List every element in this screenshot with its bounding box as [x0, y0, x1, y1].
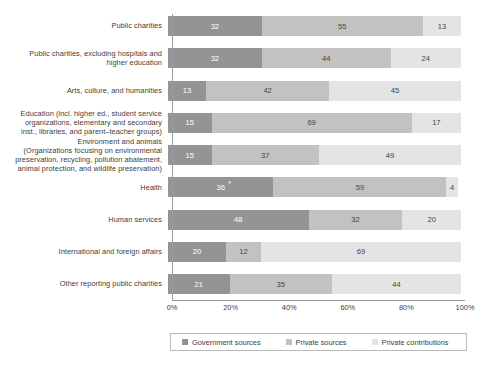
legend-swatch-icon [286, 339, 292, 345]
bar-segment: 69 [212, 113, 412, 133]
chart-row: Arts, culture, and humanities134245 [0, 81, 487, 101]
category-label: Education (incl. higher ed., student ser… [0, 109, 168, 137]
bar-segment: 45 [329, 81, 461, 101]
x-axis-tick-label: 20% [223, 303, 238, 312]
chart-row: Human services483220 [0, 210, 487, 230]
legend-label: Private contributions [382, 338, 449, 347]
bar-segment: 15 [168, 145, 212, 165]
category-label-line: higher education [0, 58, 162, 67]
bar-segment: 4 [446, 177, 458, 197]
bar-segment-value: 15 [186, 118, 194, 127]
bar-segment: 13 [168, 81, 206, 101]
chart-row: Education (incl. higher ed., student ser… [0, 113, 487, 133]
x-axis-tick-label: 80% [399, 303, 414, 312]
chart-row: Environment and animals(Organizations fo… [0, 145, 487, 165]
category-label: Public charities, excluding hospitals an… [0, 49, 168, 67]
bar-segment: 55 [262, 16, 423, 36]
stacked-bar: 325513 [168, 16, 461, 36]
category-label: International and foreign affairs [0, 247, 168, 256]
bar-segment-value: 12 [239, 247, 247, 256]
bar-segment-value: 20 [193, 247, 201, 256]
bar-segment: 13 [423, 16, 461, 36]
legend-swatch-icon [182, 339, 188, 345]
bar-segment: 44 [332, 274, 461, 294]
bar-segment: 42 [206, 81, 329, 101]
plot-area: Public charities325513Public charities, … [0, 0, 487, 300]
bar-segment: 32 [168, 48, 262, 68]
bar-segment-value: 42 [263, 86, 271, 95]
stacked-bar: 483220 [168, 210, 461, 230]
bar-segment-value: 21 [195, 280, 203, 289]
x-axis-tick-label: 0% [167, 303, 178, 312]
stacked-bar: 324424 [168, 48, 461, 68]
bar-segment-value: 44 [322, 54, 330, 63]
bar-segment-value: 13 [183, 86, 191, 95]
legend-item[interactable]: Private contributions [372, 338, 449, 347]
bar-segment: 59 [273, 177, 446, 197]
category-label: Other reporting public charities [0, 279, 168, 288]
bar-segment: 35 [230, 274, 333, 294]
bar-segment: 32 [309, 210, 403, 230]
category-label: Environment and animals(Organizations fo… [0, 137, 168, 174]
category-label-line: (Organizations focusing on environmental [0, 146, 162, 155]
legend-item[interactable]: Private sources [286, 338, 347, 347]
category-label-line: Public charities, excluding hospitals an… [0, 49, 162, 58]
stacked-bar: 36*594 [168, 177, 461, 197]
chart-row: Other reporting public charities213544 [0, 274, 487, 294]
bar-segment-value: 48 [234, 215, 242, 224]
legend-swatch-icon [372, 339, 378, 345]
bar-segment: 49 [319, 145, 461, 165]
stacked-bar: 213544 [168, 274, 461, 294]
category-label-line: organizations, elementary and secondary [0, 118, 162, 127]
x-axis-tick-labels: 0%20%40%60%80%100% [0, 303, 487, 317]
chart-row: Public charities, excluding hospitals an… [0, 48, 487, 68]
bar-segment: 20 [168, 242, 226, 262]
stacked-bar: 201269 [168, 242, 461, 262]
legend-item[interactable]: Government sources [182, 338, 261, 347]
bar-segment-value: 20 [427, 215, 435, 224]
category-label: Public charities [0, 21, 168, 30]
bar-segment-value: 32 [351, 215, 359, 224]
category-label: Health [0, 183, 168, 192]
bar-segment: 69 [261, 242, 461, 262]
bar-segment-value: 59 [356, 183, 364, 192]
category-label-line: Arts, culture, and humanities [0, 86, 162, 95]
bar-segment: 15 [168, 113, 212, 133]
bar-segment: 24 [391, 48, 461, 68]
x-axis-tick-label: 100% [456, 303, 475, 312]
bar-segment: 17 [412, 113, 461, 133]
stacked-bar: 153749 [168, 145, 461, 165]
category-label-line: Other reporting public charities [0, 279, 162, 288]
bar-segment-value: 13 [438, 22, 446, 31]
bar-segment-value: 55 [338, 22, 346, 31]
category-label-line: Public charities [0, 21, 162, 30]
chart-row: Health36*594 [0, 177, 487, 197]
x-axis-tick-label: 40% [282, 303, 297, 312]
bar-segment-value: 44 [392, 280, 400, 289]
chart-row: International and foreign affairs201269 [0, 242, 487, 262]
bar-segment: 36* [168, 177, 273, 197]
category-label-line: International and foreign affairs [0, 247, 162, 256]
category-label: Arts, culture, and humanities [0, 86, 168, 95]
bar-segment-value: 36* [217, 183, 225, 192]
x-axis-tick-label: 60% [340, 303, 355, 312]
bar-segment: 32 [168, 16, 262, 36]
category-label-line: Education (incl. higher ed., student ser… [0, 109, 162, 118]
bar-segment: 20 [402, 210, 461, 230]
category-label-line: preservation, recycling, pollution abate… [0, 155, 162, 164]
category-label-line: animal protection, and wildlife preserva… [0, 164, 162, 173]
legend-label: Government sources [192, 338, 261, 347]
chart-row: Public charities325513 [0, 16, 487, 36]
bar-segment: 48 [168, 210, 309, 230]
bar-segment: 44 [262, 48, 391, 68]
bar-segment-value: 32 [211, 22, 219, 31]
bar-segment-value: 4 [450, 183, 454, 192]
bar-segment-value: 32 [211, 54, 219, 63]
x-axis-line [172, 300, 465, 301]
bar-segment-value: 49 [386, 151, 394, 160]
stacked-bar: 134245 [168, 81, 461, 101]
stacked-bar-chart: Public charities325513Public charities, … [0, 0, 487, 366]
chart-legend: Government sourcesPrivate sourcesPrivate… [170, 333, 467, 351]
bar-segment: 12 [226, 242, 261, 262]
category-label-line: inst., libraries, and parent–teacher gro… [0, 127, 162, 136]
